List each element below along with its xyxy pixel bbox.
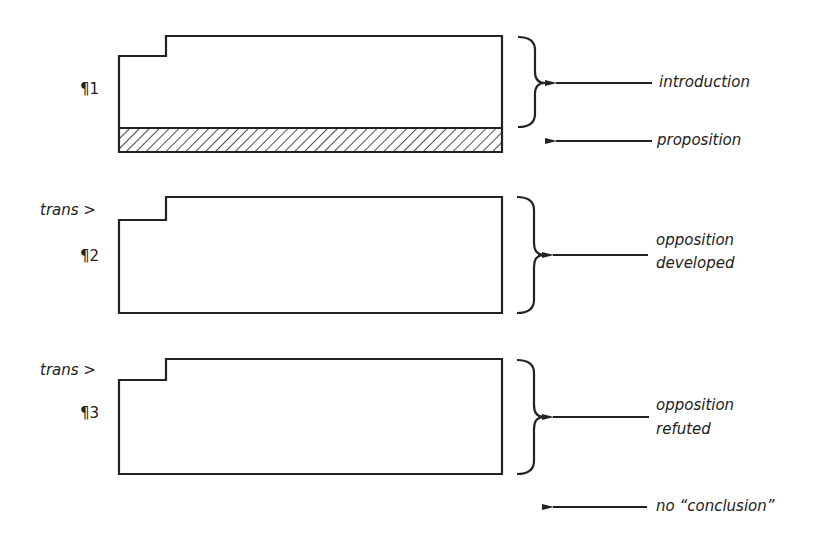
paragraph-3-label: ¶3 [80, 405, 99, 422]
paragraph-3-box [119, 359, 502, 474]
transition-3-label: trans > [40, 362, 96, 379]
transition-2-label: trans > [40, 202, 96, 219]
brace-introduction-icon [518, 37, 545, 127]
opposition-refuted-label-line1: opposition [656, 397, 734, 414]
opposition-developed-label-line1: opposition [656, 232, 734, 249]
brace-opposition-refuted-icon [517, 360, 544, 474]
introduction-label: introduction [659, 74, 750, 91]
paragraph-1-label: ¶1 [80, 81, 99, 98]
opposition-refuted-label-line2: refuted [656, 421, 711, 438]
paragraph-1-box [119, 36, 502, 152]
brace-opposition-developed-icon [517, 197, 544, 313]
opposition-developed-label-line2: developed [656, 255, 734, 272]
paragraph-2-box [119, 197, 502, 313]
proposition-hatched-band [119, 128, 502, 152]
proposition-label: proposition [657, 132, 741, 149]
paragraph-2-label: ¶2 [80, 248, 99, 265]
no-conclusion-label: no “conclusion” [656, 498, 775, 515]
